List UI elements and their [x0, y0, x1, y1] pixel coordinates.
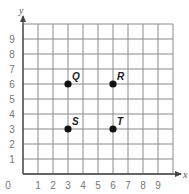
data-point-t	[109, 125, 116, 132]
point-label-s: S	[72, 116, 79, 127]
x-tick-label: 4	[80, 180, 86, 191]
point-label-r: R	[117, 71, 125, 82]
data-point-r	[109, 80, 116, 87]
axes: yx	[18, 5, 188, 180]
x-axis-arrow-icon	[175, 171, 182, 177]
grid-lines	[23, 24, 173, 174]
x-axis-label: x	[182, 169, 188, 180]
x-tick-label: 8	[140, 180, 146, 191]
y-tick-label: 5	[9, 94, 15, 105]
y-tick-label: 8	[9, 49, 15, 60]
y-tick-label: 1	[9, 154, 15, 165]
x-tick-label: 1	[35, 180, 41, 191]
data-point-q	[64, 80, 71, 87]
point-label-t: T	[117, 116, 124, 127]
x-tick-label: 6	[110, 180, 116, 191]
x-tick-label: 7	[125, 180, 131, 191]
x-tick-label: 2	[50, 180, 56, 191]
x-tick-label: 3	[65, 180, 71, 191]
point-label-q: Q	[72, 71, 80, 82]
coordinate-grid-chart: yx 0123456789123456789 QRST	[0, 0, 189, 194]
y-tick-label: 6	[9, 79, 15, 90]
y-tick-label: 4	[9, 109, 15, 120]
y-tick-label: 3	[9, 124, 15, 135]
y-axis-arrow-icon	[20, 15, 26, 22]
x-tick-label: 0	[5, 180, 11, 191]
y-axis-label: y	[18, 5, 24, 16]
x-tick-label: 5	[95, 180, 101, 191]
data-point-s	[64, 125, 71, 132]
y-tick-label: 2	[9, 139, 15, 150]
x-tick-label: 9	[155, 180, 161, 191]
y-tick-label: 9	[9, 34, 15, 45]
data-points: QRST	[64, 71, 125, 133]
y-tick-label: 7	[9, 64, 15, 75]
